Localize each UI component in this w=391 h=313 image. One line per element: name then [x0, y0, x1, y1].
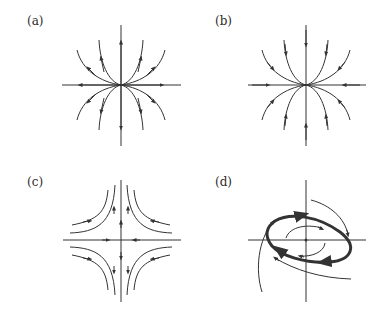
- panel-a-unstable-node: [62, 25, 181, 146]
- phase-portraits: [0, 0, 391, 313]
- panel-c-saddle: [63, 180, 181, 302]
- panel-b-stable-node: [248, 25, 366, 146]
- panel-d-limit-cycle: [248, 180, 366, 302]
